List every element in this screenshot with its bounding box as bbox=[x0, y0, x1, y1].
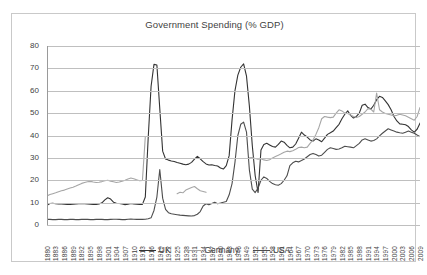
gridline bbox=[47, 113, 420, 114]
gridline bbox=[47, 225, 420, 226]
y-axis-tick-label: 70 bbox=[5, 64, 39, 72]
legend-swatch-germany bbox=[184, 250, 201, 252]
gridline bbox=[47, 46, 420, 47]
chart-title: Government Spending (% GDP) bbox=[12, 19, 417, 30]
legend-item-usa[interactable]: USA bbox=[253, 246, 290, 255]
gridline bbox=[47, 203, 420, 204]
legend-label: Germany bbox=[204, 246, 238, 255]
chart-container: Government Spending (% GDP) 807060504030… bbox=[11, 13, 416, 262]
legend-item-germany[interactable]: Germany bbox=[184, 246, 238, 255]
y-axis-tick-label: 0 bbox=[5, 221, 39, 229]
gridline bbox=[47, 180, 420, 181]
legend-swatch-uk bbox=[139, 250, 156, 252]
legend-label: UK bbox=[159, 246, 171, 255]
x-axis-tick-label: 2009 bbox=[417, 246, 424, 261]
gridlines-layer bbox=[47, 46, 420, 225]
legend-item-uk[interactable]: UK bbox=[139, 246, 171, 255]
plot-area bbox=[47, 46, 420, 225]
gridline bbox=[47, 91, 420, 92]
y-axis-tick-label: 10 bbox=[5, 199, 39, 207]
y-axis-tick-label: 50 bbox=[5, 109, 39, 117]
y-axis-tick-label: 40 bbox=[5, 132, 39, 140]
y-axis-tick-label: 20 bbox=[5, 176, 39, 184]
gridline bbox=[47, 136, 420, 137]
y-axis-tick-label: 80 bbox=[5, 42, 39, 50]
legend-label: USA bbox=[273, 246, 290, 255]
x-axis-tick-labels: 1880188318861889189218951898190119041907… bbox=[47, 227, 420, 261]
chart-legend: UKGermanyUSA bbox=[12, 246, 417, 255]
legend-swatch-usa bbox=[253, 250, 270, 252]
y-axis-tick-label: 30 bbox=[5, 154, 39, 162]
y-axis-tick-label: 60 bbox=[5, 87, 39, 95]
y-axis-line bbox=[47, 46, 48, 225]
gridline bbox=[47, 158, 420, 159]
gridline bbox=[47, 68, 420, 69]
